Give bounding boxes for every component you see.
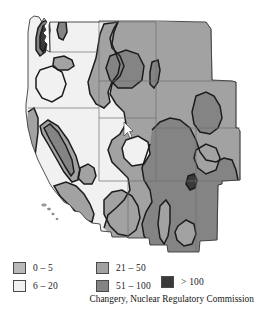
legend-swatch-over-100: [161, 276, 174, 288]
map-page: 0 – 5 6 – 20 21 – 50 51 – 100 > 100 Chan…: [0, 0, 258, 313]
legend-swatch-21-50: [96, 262, 109, 274]
channel-islands: [42, 204, 59, 220]
legend-label-6-20: 6 – 20: [33, 281, 58, 291]
western-us-contour-map: [0, 0, 258, 256]
legend-item-2: 21 – 50: [96, 262, 146, 274]
legend-label-51-100: 51 – 100: [116, 281, 151, 291]
legend-swatch-0-5: [13, 262, 26, 274]
legend-label-over-100: > 100: [181, 277, 204, 287]
legend-swatch-6-20: [13, 280, 26, 292]
attribution-text: Changery, Nuclear Regulatory Commission: [0, 294, 258, 304]
legend-item-0: 0 – 5: [13, 262, 53, 274]
legend-label-21-50: 21 – 50: [116, 263, 146, 273]
legend-label-0-5: 0 – 5: [33, 263, 53, 273]
map-figure: [0, 0, 258, 256]
legend-swatch-51-100: [96, 280, 109, 292]
legend-item-3: 51 – 100: [96, 280, 151, 292]
legend-item-4: > 100: [161, 276, 204, 288]
legend-item-1: 6 – 20: [13, 280, 58, 292]
legend: 0 – 5 6 – 20 21 – 50 51 – 100 > 100: [0, 258, 258, 298]
